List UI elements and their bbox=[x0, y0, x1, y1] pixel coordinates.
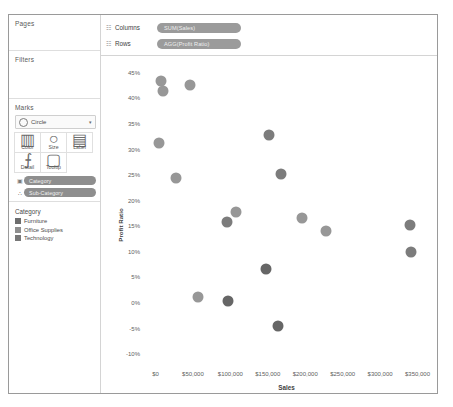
size-icon: ○ bbox=[49, 135, 59, 143]
mark-type-value: Circle bbox=[31, 119, 89, 125]
y-tick-label: 25% bbox=[128, 172, 140, 178]
scatter-point[interactable] bbox=[153, 137, 164, 148]
scatter-point[interactable] bbox=[170, 172, 181, 183]
scatter-point[interactable] bbox=[193, 291, 204, 302]
marks-pill-subcategory-row: ∴ Sub-Category bbox=[15, 188, 100, 197]
rows-shelf[interactable]: ☷ Rows AGG(Profit Ratio) bbox=[101, 37, 437, 50]
y-tick-label: 15% bbox=[128, 223, 140, 229]
legend-swatch bbox=[15, 235, 21, 241]
tooltip-icon: ▢ bbox=[46, 155, 61, 163]
label-icon: ▤ bbox=[72, 135, 87, 143]
chevron-down-icon: ▾ bbox=[89, 119, 92, 125]
color-icon: ▥ bbox=[20, 135, 35, 143]
scatter-point[interactable] bbox=[272, 320, 283, 331]
scatter-point[interactable] bbox=[157, 85, 168, 96]
filters-label: Filters bbox=[15, 56, 100, 63]
legend-item-furniture[interactable]: Furniture bbox=[15, 218, 100, 224]
scatter-point[interactable] bbox=[263, 130, 274, 141]
y-tick-label: 10% bbox=[128, 249, 140, 255]
marks-label: Marks bbox=[15, 104, 100, 111]
x-tick-label: $350,000 bbox=[405, 371, 430, 377]
y-tick-label: 30% bbox=[128, 147, 140, 153]
marks-button-grid: ▥ Color ○ Size ▤ Label ⨍ Detail ▢ Tool bbox=[15, 133, 97, 173]
label-button-label: Label bbox=[73, 144, 86, 150]
x-tick-label: $250,000 bbox=[330, 371, 355, 377]
marks-pill-sub-category[interactable]: Sub-Category bbox=[24, 188, 96, 197]
detail-pill-icon: ∴ bbox=[15, 190, 24, 196]
tooltip-button[interactable]: ▢ Tooltip bbox=[40, 152, 67, 173]
scatter-point[interactable] bbox=[276, 168, 287, 179]
y-axis-ticks: 45%40%35%30%25%20%15%10%5%0%-5%-10% bbox=[107, 56, 140, 393]
left-rail: Pages Filters Marks Circle ▾ ▥ Color ○ S… bbox=[9, 15, 101, 393]
y-tick-label: -5% bbox=[129, 326, 140, 332]
y-tick-label: 45% bbox=[128, 70, 140, 76]
x-axis: $0$50,000$100,000$150,000$200,000$250,00… bbox=[142, 371, 431, 397]
columns-pill-sum-sales[interactable]: SUM(Sales) bbox=[157, 23, 241, 33]
x-tick-label: $100,000 bbox=[218, 371, 243, 377]
legend-swatch bbox=[15, 218, 21, 224]
pages-label: Pages bbox=[15, 20, 100, 27]
worksheet-main: ☷ Columns SUM(Sales) ☷ Rows AGG(Profit R… bbox=[101, 15, 437, 393]
scatter-point[interactable] bbox=[231, 206, 242, 217]
x-tick-label: $50,000 bbox=[182, 371, 204, 377]
rows-pill-agg-profit-ratio[interactable]: AGG(Profit Ratio) bbox=[157, 39, 241, 49]
x-tick-label: $0 bbox=[152, 371, 159, 377]
scatter-point[interactable] bbox=[297, 213, 308, 224]
x-tick-label: $150,000 bbox=[255, 371, 280, 377]
color-pill-icon: ▣ bbox=[15, 178, 24, 184]
legend-item-office-supplies[interactable]: Office Supplies bbox=[15, 227, 100, 233]
columns-icon: ☷ bbox=[101, 24, 115, 31]
legend-title: Category bbox=[15, 208, 100, 215]
scatter-point[interactable] bbox=[321, 226, 332, 237]
circle-icon bbox=[19, 118, 28, 127]
shelf-area: ☷ Columns SUM(Sales) ☷ Rows AGG(Profit R… bbox=[101, 15, 437, 56]
chart-canvas[interactable]: Profit Ratio 45%40%35%30%25%20%15%10%5%0… bbox=[101, 56, 437, 393]
filters-shelf[interactable]: Filters bbox=[9, 51, 100, 99]
columns-label: Columns bbox=[115, 24, 157, 31]
y-tick-label: 35% bbox=[128, 121, 140, 127]
y-tick-label: -10% bbox=[126, 351, 140, 357]
y-tick-label: 40% bbox=[128, 95, 140, 101]
tooltip-button-label: Tooltip bbox=[46, 164, 61, 170]
marks-pill-category-row: ▣ Category bbox=[15, 176, 100, 185]
rows-icon: ☷ bbox=[101, 40, 115, 47]
mark-type-dropdown[interactable]: Circle ▾ bbox=[15, 115, 96, 129]
detail-button[interactable]: ⨍ Detail bbox=[14, 152, 41, 173]
scatter-point[interactable] bbox=[261, 264, 272, 275]
legend-item-label: Office Supplies bbox=[24, 227, 63, 233]
legend-item-label: Furniture bbox=[24, 218, 47, 224]
x-tick-label: $200,000 bbox=[293, 371, 318, 377]
scatter-point[interactable] bbox=[221, 217, 232, 228]
y-tick-label: 5% bbox=[131, 274, 140, 280]
label-button[interactable]: ▤ Label bbox=[66, 132, 93, 153]
scatter-point[interactable] bbox=[223, 295, 234, 306]
columns-shelf[interactable]: ☷ Columns SUM(Sales) bbox=[101, 21, 437, 34]
legend-item-technology[interactable]: Technology bbox=[15, 235, 100, 241]
x-axis-title: Sales bbox=[142, 384, 431, 391]
detail-button-label: Detail bbox=[21, 164, 34, 170]
rows-label: Rows bbox=[115, 40, 157, 47]
scatter-plot-area[interactable] bbox=[142, 60, 431, 367]
scatter-point[interactable] bbox=[184, 79, 195, 90]
legend-swatch bbox=[15, 227, 21, 233]
detail-icon: ⨍ bbox=[24, 155, 32, 163]
color-legend: Category Furniture Office Supplies Techn… bbox=[9, 202, 100, 241]
scatter-point[interactable] bbox=[405, 220, 416, 231]
y-tick-label: 20% bbox=[128, 198, 140, 204]
scatter-point[interactable] bbox=[405, 246, 416, 257]
y-tick-label: 0% bbox=[131, 300, 140, 306]
marks-card: Marks Circle ▾ ▥ Color ○ Size ▤ Label bbox=[9, 99, 100, 202]
x-tick-label: $300,000 bbox=[368, 371, 393, 377]
tableau-worksheet: Pages Filters Marks Circle ▾ ▥ Color ○ S… bbox=[8, 14, 438, 394]
marks-pill-category[interactable]: Category bbox=[24, 176, 96, 185]
pages-shelf[interactable]: Pages bbox=[9, 15, 100, 51]
legend-item-label: Technology bbox=[24, 235, 53, 241]
